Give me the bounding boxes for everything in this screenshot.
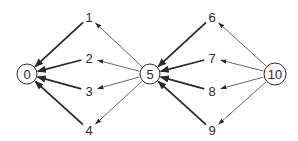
edge-7-to-5 xyxy=(161,60,205,71)
node-label: 3 xyxy=(85,84,92,99)
node-label: 8 xyxy=(208,84,215,99)
edge-1-to-0 xyxy=(35,22,83,66)
edge-5-to-2 xyxy=(98,60,140,71)
edge-2-to-0 xyxy=(38,60,82,71)
node-label: 6 xyxy=(208,10,215,25)
node-label: 5 xyxy=(146,67,153,82)
node-label: 0 xyxy=(23,67,30,82)
edge-10-to-6 xyxy=(219,23,266,66)
edge-10-to-8 xyxy=(221,77,264,89)
node-label: 10 xyxy=(268,67,282,82)
node-label: 4 xyxy=(85,123,92,138)
node-label: 1 xyxy=(85,10,92,25)
node-label: 9 xyxy=(208,123,215,138)
graph-diagram: 012345678910 xyxy=(0,0,298,141)
edge-5-to-1 xyxy=(96,23,142,66)
node-label: 7 xyxy=(208,51,215,66)
node-9: 9 xyxy=(208,123,215,138)
edge-5-to-3 xyxy=(98,77,140,89)
node-8: 8 xyxy=(208,84,215,99)
node-1: 1 xyxy=(85,10,92,25)
node-7: 7 xyxy=(208,51,215,66)
node-0: 0 xyxy=(17,64,37,84)
edge-6-to-5 xyxy=(158,22,206,66)
edge-10-to-7 xyxy=(221,60,264,71)
node-2: 2 xyxy=(85,51,92,66)
edge-8-to-5 xyxy=(161,77,205,89)
edge-5-to-4 xyxy=(96,81,142,124)
node-6: 6 xyxy=(208,10,215,25)
nodes-group: 012345678910 xyxy=(17,10,286,138)
node-label: 2 xyxy=(85,51,92,66)
node-3: 3 xyxy=(85,84,92,99)
edge-10-to-9 xyxy=(219,82,266,124)
node-5: 5 xyxy=(140,64,160,84)
node-4: 4 xyxy=(85,123,92,138)
node-10: 10 xyxy=(264,63,286,85)
edge-3-to-0 xyxy=(38,77,82,89)
